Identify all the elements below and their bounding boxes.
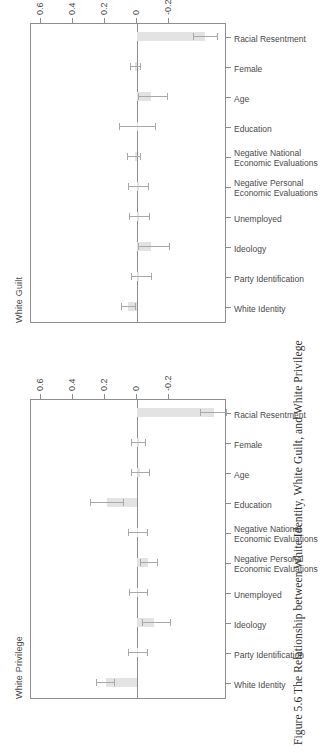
- coefficient-marker: [31, 52, 225, 82]
- y-axis-tick: [104, 394, 105, 399]
- x-axis-tick: [226, 217, 231, 218]
- coefficient-marker: [31, 458, 225, 488]
- rotated-page-stage: White Privilege -0.200.20.40.6 White Ide…: [0, 0, 333, 753]
- y-axis-tick: [136, 394, 137, 399]
- coefficient-marker: [31, 608, 225, 638]
- ci-upper-cap: [127, 153, 128, 160]
- estimate-bar: [137, 183, 139, 192]
- y-axis-tick-label: 0.2: [99, 378, 109, 391]
- ci-upper-cap: [131, 439, 132, 446]
- coefficient-marker: [31, 172, 225, 202]
- ci-lower-cap: [140, 63, 141, 70]
- x-axis-label: Ideology: [234, 244, 266, 254]
- confidence-interval-line: [128, 186, 148, 187]
- y-axis-tick: [104, 18, 105, 23]
- x-axis-tick: [226, 473, 231, 474]
- coefficient-marker: [31, 518, 225, 548]
- ci-upper-cap: [200, 409, 201, 416]
- x-axis-tick: [226, 277, 231, 278]
- y-axis-tick-label: 0.4: [67, 378, 77, 391]
- ci-lower-cap: [149, 213, 150, 220]
- estimate-bar: [107, 499, 138, 508]
- x-axis-tick: [226, 683, 231, 684]
- ci-upper-cap: [90, 499, 91, 506]
- confidence-interval-line: [129, 216, 149, 217]
- x-axis-label: Negative PersonalEconomic Evaluations: [234, 178, 318, 198]
- ci-upper-cap: [121, 303, 122, 310]
- ci-upper-cap: [129, 589, 130, 596]
- y-axis-tick-label: 0: [131, 386, 141, 391]
- coefficient-marker: [31, 548, 225, 578]
- panel-white-privilege: White Privilege -0.200.20.40.6 White Ide…: [0, 379, 282, 745]
- ci-lower-cap: [123, 499, 124, 506]
- estimate-bar: [135, 153, 137, 162]
- coefficient-marker: [31, 578, 225, 608]
- y-axis-tick: [136, 18, 137, 23]
- x-axis-tick: [226, 413, 231, 414]
- x-axis-label: Age: [234, 470, 249, 480]
- x-axis-tick: [226, 187, 231, 188]
- coefficient-marker: [31, 398, 225, 428]
- plot-area: [30, 399, 226, 699]
- ci-upper-cap: [128, 183, 129, 190]
- estimate-bar: [137, 649, 138, 658]
- x-axis-label: Education: [234, 500, 272, 510]
- confidence-interval-line: [200, 412, 227, 413]
- confidence-interval-line: [129, 592, 147, 593]
- plot-area: [30, 23, 226, 323]
- ci-lower-cap: [147, 529, 148, 536]
- ci-upper-cap: [131, 469, 132, 476]
- x-axis-tick: [226, 593, 231, 594]
- panel-white-guilt: White Guilt -0.200.20.40.6 White Identit…: [0, 3, 282, 369]
- estimate-bar: [137, 123, 138, 132]
- ci-lower-cap: [140, 153, 141, 160]
- y-axis-tick: [72, 18, 73, 23]
- figure-5-6: White Privilege -0.200.20.40.6 White Ide…: [0, 0, 333, 753]
- x-axis-label: White Identity: [234, 304, 286, 314]
- ci-lower-cap: [135, 303, 136, 310]
- estimate-bar: [137, 243, 151, 252]
- coefficient-marker: [31, 638, 225, 668]
- x-axis-tick: [226, 127, 231, 128]
- panel-title: White Privilege: [14, 636, 24, 699]
- ci-upper-cap: [119, 123, 120, 130]
- coefficient-marker: [31, 428, 225, 458]
- x-axis-tick: [226, 97, 231, 98]
- x-axis-tick: [226, 307, 231, 308]
- estimate-bar: [106, 679, 137, 688]
- y-axis-tick: [40, 18, 41, 23]
- coefficient-marker: [31, 262, 225, 292]
- x-axis-label: Female: [234, 64, 262, 74]
- coefficient-marker: [31, 488, 225, 518]
- x-axis-label: Unemployed: [234, 590, 282, 600]
- y-axis-tick-label: -0.2: [163, 375, 173, 391]
- ci-lower-cap: [147, 649, 148, 656]
- ci-lower-cap: [151, 273, 152, 280]
- panels-container: White Privilege -0.200.20.40.6 White Ide…: [0, 0, 282, 753]
- y-axis-tick-label: 0.4: [67, 2, 77, 15]
- x-axis-label: Education: [234, 124, 272, 134]
- ci-lower-cap: [217, 33, 218, 40]
- coefficient-marker: [31, 112, 225, 142]
- confidence-interval-line: [96, 682, 114, 683]
- x-axis-label: Negative NationalEconomic Evaluations: [234, 148, 318, 168]
- y-axis-tick: [40, 394, 41, 399]
- confidence-interval-line: [142, 622, 170, 623]
- ci-lower-cap: [169, 243, 170, 250]
- ci-upper-cap: [128, 649, 129, 656]
- x-axis-tick: [226, 67, 231, 68]
- coefficient-marker: [31, 202, 225, 232]
- ci-lower-cap: [147, 589, 148, 596]
- confidence-interval-line: [131, 472, 149, 473]
- estimate-bar: [137, 273, 139, 282]
- x-axis-tick: [226, 247, 231, 248]
- ci-upper-cap: [138, 243, 139, 250]
- y-axis-tick-label: -0.2: [163, 0, 173, 15]
- x-axis-label: Ideology: [234, 620, 266, 630]
- y-axis-tick-label: 0.6: [35, 2, 45, 15]
- coefficient-marker: [31, 22, 225, 52]
- estimate-bar: [137, 409, 214, 418]
- confidence-interval-line: [127, 156, 140, 157]
- y-axis-tick: [72, 394, 73, 399]
- y-axis-tick: [168, 18, 169, 23]
